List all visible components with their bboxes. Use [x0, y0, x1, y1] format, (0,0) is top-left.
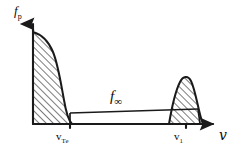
x-axis-label: v [219, 128, 227, 142]
plateau-label-f-infinity: f∞ [110, 89, 122, 107]
y-axis-label: fp [14, 4, 22, 21]
x-tick-label-v1: v1 [174, 131, 183, 145]
x-tick-label-vte-sub: Te [62, 137, 69, 144]
x-tick-label-vte: vTe [56, 131, 69, 145]
x-tick-label-v1-sub: 1 [180, 137, 184, 144]
plasma-distribution-figure: fp v vTe v1 f∞ [0, 0, 241, 155]
bulk-peak-region [33, 32, 72, 124]
plot-canvas [0, 0, 241, 155]
y-axis-label-sub: p [18, 12, 22, 21]
plateau-label-sub: ∞ [114, 95, 121, 107]
